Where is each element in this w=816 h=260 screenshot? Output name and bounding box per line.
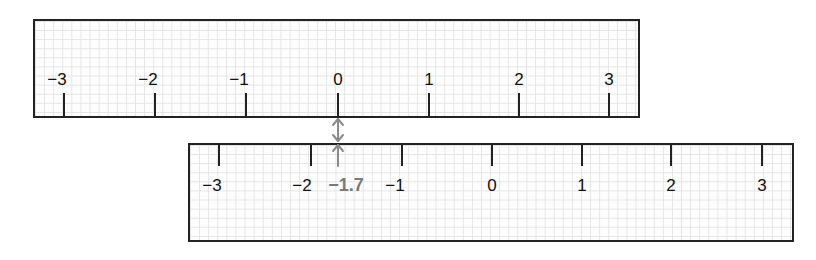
double-headed-arrow-icon (0, 0, 816, 260)
